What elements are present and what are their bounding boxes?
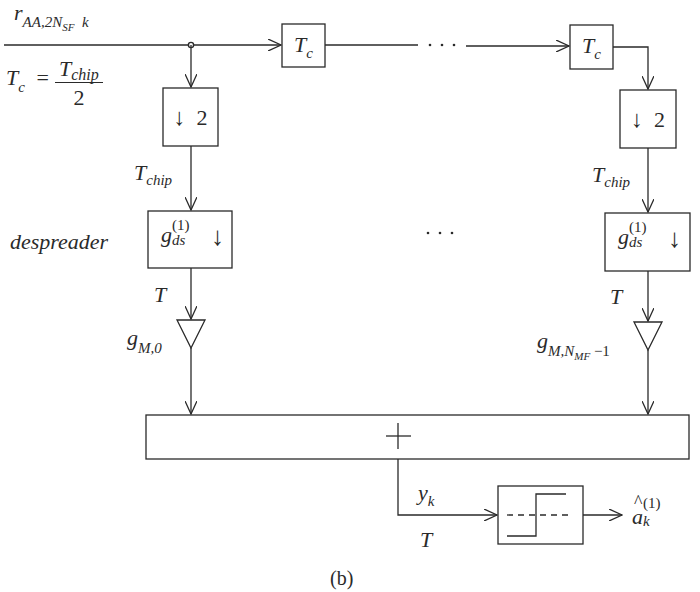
downsample-factor: 2 [197, 105, 208, 130]
output-signal-label: yk [418, 482, 434, 504]
gain-sub: M,N [548, 343, 574, 359]
output-rate-label: T [420, 529, 432, 551]
y-symbol: y [418, 480, 428, 505]
delay-block-2-label: Tc [570, 33, 613, 59]
delay-block-1-label: Tc [282, 32, 325, 58]
num-symbol: T [59, 56, 71, 81]
input-subscript-text: AA,2N [23, 14, 63, 30]
despreader-sup: (1) [629, 220, 647, 235]
downsampler-right-label: ↓ 2 [620, 106, 676, 133]
tchip-symbol: T [134, 160, 146, 185]
hat-accent: ^ [634, 493, 642, 511]
despreader-sub: ds [172, 233, 190, 248]
gain-label-right: gM,NMF −1 [537, 330, 610, 352]
decision-sub: k [643, 514, 661, 529]
rate-label-t-right: T [610, 286, 622, 308]
y-sub: k [428, 493, 435, 509]
gain-label-left: gM,0 [127, 327, 162, 349]
equals-sign: = [36, 65, 48, 90]
down-arrow-icon: ↓ [174, 104, 186, 130]
despreader-right-content: g(1)ds [618, 226, 647, 256]
despreader-left-content: g(1)ds [161, 224, 190, 254]
downsampler-left-label: ↓ 2 [163, 104, 218, 131]
g-symbol: g [161, 222, 172, 247]
down-arrow-icon: ↓ [631, 106, 643, 132]
input-symbol: r [14, 0, 23, 25]
despreader-right-arrow-icon: ↓ [668, 226, 681, 252]
rate-lhs-sub: c [18, 79, 25, 95]
tchip-symbol: T [592, 162, 604, 187]
ellipsis-dots [427, 44, 456, 235]
input-signal-label: rAA,2NSF k [14, 2, 89, 24]
tchip-sub: chip [146, 172, 172, 188]
gain-suffix: −1 [590, 343, 610, 359]
fraction-numerator: Tchip [55, 56, 103, 83]
delay-1-symbol: T [294, 32, 306, 57]
despreader-label: despreader [10, 231, 108, 253]
despreader-left-arrow-icon: ↓ [211, 224, 224, 250]
tchip-sub: chip [604, 174, 630, 190]
fraction-denominator: 2 [55, 83, 103, 111]
gain-triangle-right [634, 322, 662, 350]
rate-label-tchip-left: Tchip [134, 162, 172, 184]
despreader-sup: (1) [172, 218, 190, 233]
input-subsub: SF [62, 21, 74, 33]
despreader-sub: ds [629, 235, 647, 250]
gain-triangle-left [177, 320, 205, 348]
g-symbol: g [618, 224, 629, 249]
summer-block [146, 415, 689, 459]
gain-symbol: g [537, 328, 548, 353]
figure-caption: (b) [330, 567, 353, 590]
rate-label-t-left: T [154, 284, 166, 306]
gain-subsub: MF [574, 350, 590, 362]
decision-output-label: a^(1)k [632, 506, 661, 539]
downsample-factor: 2 [654, 107, 665, 132]
gain-symbol: g [127, 325, 138, 350]
delay-1-sub: c [306, 45, 313, 61]
decision-sup: (1) [643, 496, 661, 511]
gain-sub: M,0 [138, 340, 162, 356]
rate-lhs: T [6, 65, 18, 90]
rate-equation-lhs: Tc = [6, 67, 49, 89]
num-sub: chip [71, 66, 99, 83]
rate-equation-fraction: Tchip 2 [55, 56, 103, 111]
delay-2-symbol: T [582, 33, 594, 58]
input-subscript: AA,2NSF k [23, 14, 89, 30]
diagram-wires [0, 0, 700, 592]
delay-2-sub: c [594, 46, 601, 62]
rate-label-tchip-right: Tchip [592, 164, 630, 186]
input-index: k [82, 14, 89, 30]
